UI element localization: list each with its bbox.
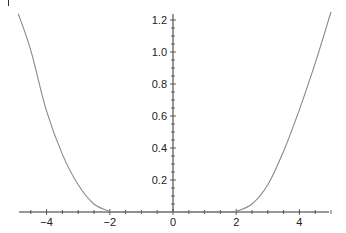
x-tick-label: −2 (104, 216, 117, 228)
axis-ticks (31, 20, 331, 215)
y-tick-label: 0.2 (152, 174, 167, 186)
x-tick-label: 2 (233, 216, 239, 228)
y-tick-label: 1.0 (152, 46, 167, 58)
y-tick-label: 0.8 (152, 78, 167, 90)
x-tick-label: 4 (296, 216, 302, 228)
y-tick-label: 0.6 (152, 110, 167, 122)
plot-area: −4−20240.20.40.60.81.01.2 (0, 0, 346, 233)
data-curve (18, 12, 331, 212)
x-tick-label: 0 (170, 216, 176, 228)
x-tick-label: −4 (40, 216, 53, 228)
y-tick-label: 1.2 (152, 14, 167, 26)
y-tick-label: 0.4 (152, 142, 167, 154)
